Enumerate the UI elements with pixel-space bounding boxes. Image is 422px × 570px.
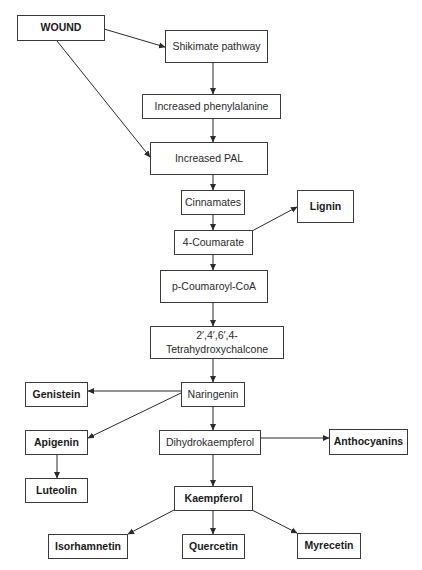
node-label: Cinnamates	[185, 196, 241, 209]
node-dihydrokaempferol: Dihydrokaempferol	[159, 430, 261, 455]
node-anthocyanins: Anthocyanins	[329, 429, 408, 455]
arrow-coumarate-to-lignin	[252, 207, 297, 231]
node-label: Increased phenylalanine	[155, 100, 269, 113]
node-cinnamates: Cinnamates	[181, 190, 245, 215]
node-label: Quercetin	[189, 540, 238, 553]
arrow-wound-to-pal	[57, 41, 150, 157]
node-increased-pal: Increased PAL	[150, 142, 268, 175]
node-label: Genistein	[33, 388, 81, 401]
node-label: Luteolin	[36, 484, 77, 497]
node-myrecetin: Myrecetin	[297, 533, 361, 559]
node-label: Isorhamnetin	[55, 540, 121, 553]
node-label-line1: 2′,4′,6′,4-	[196, 329, 238, 342]
node-lignin: Lignin	[297, 190, 354, 223]
node-genistein: Genistein	[25, 382, 88, 407]
node-label: Lignin	[310, 200, 342, 213]
node-label: Naringenin	[188, 388, 239, 401]
node-shikimate-pathway: Shikimate pathway	[165, 30, 268, 63]
node-label: 4-Coumarate	[183, 236, 244, 249]
node-naringenin: Naringenin	[181, 382, 245, 407]
arrow-kaempferol-to-isorhamnetin	[128, 510, 174, 534]
node-isorhamnetin: Isorhamnetin	[48, 534, 128, 559]
node-luteolin: Luteolin	[25, 478, 88, 503]
arrow-kaempferol-to-myrecetin	[252, 510, 297, 533]
node-label: Increased PAL	[175, 152, 243, 165]
arrow-wound-to-shikimate	[104, 29, 165, 47]
node-tetrahydroxychalcone: 2′,4′,6′,4- Tetrahydroxychalcone	[150, 326, 284, 359]
node-label: Myrecetin	[304, 539, 353, 552]
node-kaempferol: Kaempferol	[174, 486, 253, 511]
node-label: Apigenin	[34, 436, 79, 449]
pathway-diagram: WOUND Shikimate pathway Increased phenyl…	[0, 0, 422, 570]
node-quercetin: Quercetin	[182, 534, 245, 559]
node-label: Shikimate pathway	[172, 40, 260, 53]
node-label: p-Coumaroyl-CoA	[172, 280, 256, 293]
node-increased-phenylalanine: Increased phenylalanine	[142, 94, 281, 119]
node-label: Kaempferol	[185, 492, 243, 505]
node-4-coumarate: 4-Coumarate	[174, 230, 253, 255]
node-label-line2: Tetrahydroxychalcone	[166, 343, 268, 356]
node-label: Anthocyanins	[334, 435, 403, 448]
node-label: WOUND	[41, 21, 82, 34]
node-label: Dihydrokaempferol	[166, 436, 254, 449]
node-p-coumaroyl-coa: p-Coumaroyl-CoA	[160, 270, 268, 303]
node-wound: WOUND	[17, 15, 105, 41]
node-apigenin: Apigenin	[25, 430, 88, 455]
